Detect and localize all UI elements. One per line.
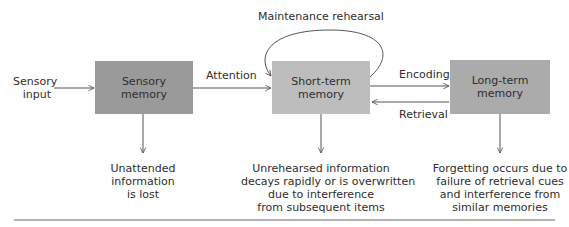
- long-term-note: Forgetting occurs due to failure of retr…: [430, 162, 569, 214]
- short-term-memory-box: Short-term memory: [272, 61, 370, 114]
- sensory-input-line2: input: [13, 88, 51, 101]
- retrieval-label: Retrieval: [399, 108, 448, 121]
- note-line: failure of retrieval cues: [430, 175, 569, 188]
- short-term-note: Unrehearsed information decays rapidly o…: [241, 162, 401, 214]
- note-line: Unrehearsed information: [241, 162, 401, 175]
- sensory-memory-line1: Sensory: [121, 75, 167, 88]
- short-term-line2: memory: [291, 88, 351, 101]
- note-line: Forgetting occurs due to: [430, 162, 569, 175]
- encoding-label: Encoding: [399, 68, 450, 81]
- attention-label: Attention: [206, 69, 257, 82]
- sensory-input-label: Sensory input: [13, 75, 51, 101]
- note-line: similar memories: [430, 201, 569, 214]
- long-term-memory-box: Long-term memory: [450, 60, 550, 114]
- long-term-line1: Long-term: [472, 74, 529, 87]
- note-line: from subsequent items: [241, 201, 401, 214]
- note-line: due to interference: [241, 188, 401, 201]
- note-line: information: [93, 175, 193, 188]
- short-term-line1: Short-term: [291, 75, 351, 88]
- note-line: is lost: [93, 188, 193, 201]
- maintenance-rehearsal-label: Maintenance rehearsal: [258, 10, 384, 23]
- note-line: and interference from: [430, 188, 569, 201]
- note-line: Unattended: [93, 162, 193, 175]
- long-term-line2: memory: [472, 87, 529, 100]
- sensory-memory-box: Sensory memory: [95, 61, 193, 114]
- note-line: decays rapidly or is overwritten: [241, 175, 401, 188]
- sensory-input-line1: Sensory: [13, 75, 51, 88]
- sensory-note: Unattended information is lost: [93, 162, 193, 201]
- sensory-memory-line2: memory: [121, 88, 167, 101]
